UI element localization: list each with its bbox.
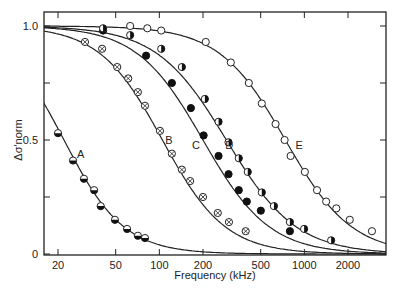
- data-point-c: [200, 132, 207, 139]
- data-point-c: [168, 79, 175, 86]
- data-point-e: [281, 136, 288, 143]
- x-axis-label: Frequency (kHz): [174, 269, 255, 281]
- data-point-d: [178, 63, 185, 70]
- data-point-a: [134, 232, 141, 239]
- data-point-d: [270, 203, 277, 210]
- data-point-b: [81, 38, 88, 45]
- data-point-a: [54, 130, 61, 137]
- x-tick-label: 100: [150, 259, 168, 271]
- data-point-a: [80, 175, 87, 182]
- data-point-e: [323, 198, 330, 205]
- data-point-b: [242, 228, 249, 235]
- chart: 205010020050010002000 00.51.0 Frequency …: [0, 0, 395, 293]
- data-point-d: [244, 168, 251, 175]
- x-tick-label: 2000: [336, 259, 360, 271]
- data-point-d: [258, 189, 265, 196]
- x-tick-label: 20: [52, 259, 64, 271]
- data-point-c: [187, 104, 194, 111]
- curve-label-e: E: [296, 139, 303, 151]
- data-point-e: [272, 120, 279, 127]
- data-point-a: [141, 234, 148, 241]
- data-point-a: [123, 225, 130, 232]
- data-point-d: [127, 32, 134, 39]
- curve-label-b: B: [165, 134, 172, 146]
- y-tick-labels: 00.51.0: [23, 20, 38, 260]
- data-point-d: [235, 155, 242, 162]
- fit-curve-a: [36, 90, 391, 254]
- data-point-e: [313, 187, 320, 194]
- data-point-e: [245, 79, 252, 86]
- fit-curve-b: [36, 30, 391, 254]
- data-point-e: [333, 205, 340, 212]
- y-axis-label: Δσ′norm: [12, 119, 24, 160]
- data-point-d: [300, 225, 307, 232]
- data-point-b: [168, 150, 175, 157]
- data-point-c: [142, 52, 149, 59]
- data-point-c: [225, 171, 232, 178]
- data-point-a: [97, 203, 104, 210]
- data-point-b: [125, 75, 132, 82]
- data-point-b: [187, 177, 194, 184]
- data-point-d: [201, 95, 208, 102]
- data-point-b: [199, 193, 206, 200]
- data-point-d: [158, 45, 165, 52]
- data-point-e: [202, 38, 209, 45]
- data-point-e: [258, 100, 265, 107]
- data-point-d: [286, 218, 293, 225]
- data-point-a: [91, 187, 98, 194]
- data-point-e: [227, 59, 234, 66]
- y-tick-label: 0.5: [23, 134, 38, 146]
- data-point-b: [178, 166, 185, 173]
- data-point-a: [69, 157, 76, 164]
- data-point-b: [114, 63, 121, 70]
- curve-labels: ABCDE: [77, 134, 303, 160]
- data-point-c: [235, 187, 242, 194]
- data-point-d: [328, 237, 335, 244]
- fit-curve-c: [36, 27, 391, 253]
- data-point-b: [141, 102, 148, 109]
- data-point-c: [243, 198, 250, 205]
- data-point-b: [99, 45, 106, 52]
- y-tick-label: 1.0: [23, 20, 38, 32]
- data-point-e: [158, 27, 165, 34]
- curve-label-a: A: [77, 148, 85, 160]
- data-point-b: [225, 218, 232, 225]
- data-point-b: [214, 209, 221, 216]
- data-point-e: [287, 152, 294, 159]
- data-point-b: [156, 127, 163, 134]
- curve-label-c: C: [192, 139, 200, 151]
- data-point-d: [99, 25, 106, 32]
- data-point-c: [215, 152, 222, 159]
- data-point-e: [346, 216, 353, 223]
- data-point-e: [127, 22, 134, 29]
- data-point-a: [111, 216, 118, 223]
- data-point-c: [257, 207, 264, 214]
- x-tick-label: 1000: [292, 259, 316, 271]
- fit-curves: [36, 26, 391, 254]
- x-tick-label: 50: [110, 259, 122, 271]
- data-point-e: [368, 228, 375, 235]
- data-point-b: [134, 89, 141, 96]
- y-tick-label: 0: [32, 248, 38, 260]
- data-point-c: [286, 228, 293, 235]
- data-point-e: [144, 25, 151, 32]
- fit-curve-d: [36, 27, 391, 252]
- curve-label-d: D: [225, 139, 233, 151]
- data-point-d: [215, 118, 222, 125]
- data-point-e: [301, 168, 308, 175]
